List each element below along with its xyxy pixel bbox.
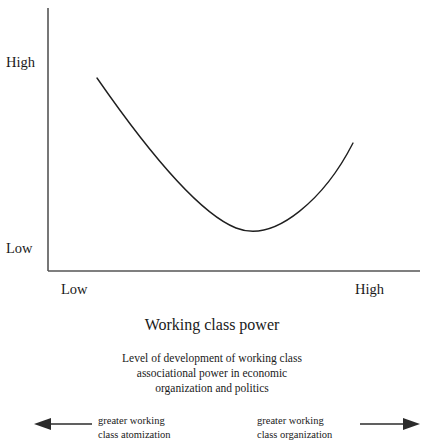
x-axis-tick-low: Low: [61, 282, 88, 297]
right-direction-note: greater working class organization: [257, 414, 332, 442]
right-direction-note-line-2: class organization: [257, 428, 332, 442]
left-direction-note: greater working class atomization: [98, 414, 171, 442]
data-curve: [97, 78, 353, 231]
left-direction-note-line-2: class atomization: [98, 428, 171, 442]
chart-subtitle-line-3: organization and politics: [0, 381, 424, 396]
left-arrow-head-icon: [34, 418, 51, 430]
working-class-power-figure: High Low Low High Working class power Le…: [0, 0, 424, 442]
left-direction-note-line-1: greater working: [98, 414, 171, 428]
y-axis-tick-low: Low: [6, 241, 33, 256]
chart-title: Working class power: [0, 316, 424, 334]
right-arrow-head-icon: [403, 418, 420, 430]
chart-subtitle-line-2: associational power in economic: [0, 366, 424, 381]
right-direction-note-line-1: greater working: [257, 414, 332, 428]
left-direction-arrow: [34, 418, 92, 430]
x-axis-tick-high: High: [355, 282, 384, 297]
chart-subtitle-line-1: Level of development of working class: [0, 351, 424, 366]
y-axis-tick-high: High: [6, 55, 35, 70]
right-direction-arrow: [360, 418, 420, 430]
chart-subtitle: Level of development of working class as…: [0, 351, 424, 397]
